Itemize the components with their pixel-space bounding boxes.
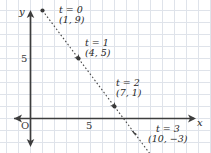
y-tick-5: 5 <box>21 53 27 64</box>
annotation-t0-point: (1, 9) <box>59 15 85 25</box>
annotation-t3-point: (10, −3) <box>148 134 188 144</box>
annotation-t2: t = 2 (7, 1) <box>116 78 142 97</box>
annotation-t1-point: (4, 5) <box>85 48 111 58</box>
data-point-t1 <box>76 56 80 60</box>
origin-label: O <box>21 120 29 131</box>
y-axis-label: y <box>19 6 25 17</box>
x-tick-5: 5 <box>86 120 92 131</box>
data-point-t2 <box>112 104 116 108</box>
annotation-t2-point: (7, 1) <box>116 88 142 98</box>
annotation-t3: t = 3 (10, −3) <box>148 124 188 143</box>
annotation-t0: t = 0 (1, 9) <box>59 5 85 24</box>
data-point-t0 <box>40 8 44 12</box>
annotation-t1: t = 1 (4, 5) <box>85 38 111 57</box>
x-axis <box>14 115 196 123</box>
x-axis-label: x <box>197 117 203 128</box>
parametric-graph-figure: y x O 5 5 t = 0 (1, 9) t = 1 (4, 5) t = … <box>0 0 211 153</box>
